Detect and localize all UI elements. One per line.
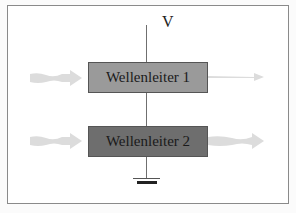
- connector-line: [146, 93, 147, 126]
- output-arrow-2-icon: [208, 133, 266, 149]
- ground-line: [146, 157, 147, 178]
- voltage-label: V: [162, 13, 174, 31]
- output-arrow-1-icon: [208, 71, 266, 83]
- ground-plate-icon: [137, 181, 157, 184]
- voltage-line-top: [146, 25, 147, 62]
- waveguide-1-label: Wellenleiter 1: [106, 69, 190, 86]
- input-arrow-2-icon: [28, 133, 84, 149]
- input-arrow-1-icon: [28, 70, 84, 86]
- waveguide-2-label: Wellenleiter 2: [106, 133, 190, 150]
- diagram-frame: [7, 5, 289, 204]
- waveguide-1-box: Wellenleiter 1: [88, 62, 208, 93]
- ground-icon: [133, 178, 160, 179]
- waveguide-2-box: Wellenleiter 2: [88, 126, 208, 157]
